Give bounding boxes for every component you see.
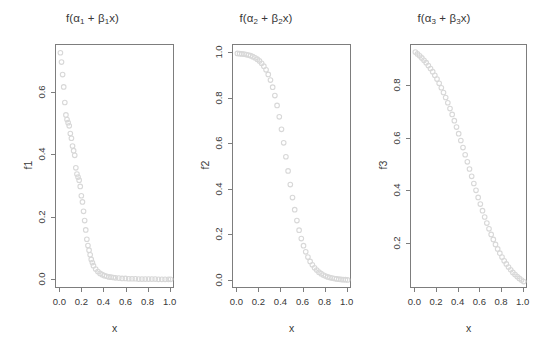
panel-3: f(α3 + β3x)0.00.20.40.60.81.00.20.40.60.… <box>354 0 534 348</box>
x-tick-label: 0.4 <box>97 296 110 307</box>
plot-area-1 <box>55 44 174 288</box>
x-tick-label: 0.8 <box>494 296 507 307</box>
y-tick-mark <box>51 154 55 155</box>
panel-title-2: f(α2 + β2x) <box>178 12 354 24</box>
x-tick-mark <box>103 288 104 292</box>
x-tick-mark <box>479 288 480 292</box>
data-markers-2 <box>233 45 352 289</box>
x-tick-label: 0.2 <box>252 296 265 307</box>
x-tick-mark <box>280 288 281 292</box>
data-markers-1 <box>56 45 175 289</box>
y-tick-mark <box>51 92 55 93</box>
y-tick-mark <box>228 189 232 190</box>
x-tick-mark <box>148 288 149 292</box>
x-tick-label: 1.0 <box>516 296 529 307</box>
plot-area-3 <box>410 44 527 288</box>
plot-area-2 <box>232 44 351 288</box>
x-tick-label: 0.6 <box>119 296 132 307</box>
y-axis-label-1: f1 <box>22 150 34 180</box>
x-tick-label: 0.4 <box>451 296 464 307</box>
y-tick-mark <box>51 217 55 218</box>
y-tick-label: 0.2 <box>213 227 225 241</box>
y-axis-label-3: f3 <box>377 150 389 180</box>
x-tick-label: 1.0 <box>163 296 176 307</box>
y-tick-mark <box>406 190 410 191</box>
panel-title-1: f(α1 + β1x) <box>0 12 185 24</box>
y-tick-mark <box>228 143 232 144</box>
x-tick-mark <box>325 288 326 292</box>
x-tick-label: 0.0 <box>408 296 421 307</box>
x-tick-label: 0.6 <box>296 296 309 307</box>
y-tick-mark <box>228 280 232 281</box>
y-tick-label: 0.0 <box>213 273 225 287</box>
y-tick-label: 0.8 <box>391 78 403 92</box>
y-tick-label: 0.4 <box>391 183 403 197</box>
y-tick-label: 1.0 <box>213 45 225 59</box>
figure-canvas: . f(α1 + β1x)0.00.20.40.60.81.00.00.20.4… <box>0 0 534 348</box>
x-tick-mark <box>414 288 415 292</box>
x-tick-label: 0.2 <box>75 296 88 307</box>
y-tick-label: 0.2 <box>391 236 403 250</box>
y-tick-mark <box>406 138 410 139</box>
x-tick-label: 0.0 <box>230 296 243 307</box>
x-tick-label: 1.0 <box>340 296 353 307</box>
x-tick-label: 0.8 <box>141 296 154 307</box>
x-axis-label-2: x <box>232 322 351 334</box>
y-tick-mark <box>228 52 232 53</box>
x-tick-mark <box>436 288 437 292</box>
x-tick-mark <box>523 288 524 292</box>
panel-title-3: f(α3 + β3x) <box>354 12 534 24</box>
y-tick-label: 0.6 <box>36 85 48 99</box>
y-tick-label: 0.2 <box>36 210 48 224</box>
x-tick-mark <box>59 288 60 292</box>
x-tick-label: 0.4 <box>274 296 287 307</box>
x-tick-mark <box>81 288 82 292</box>
y-tick-label: 0.6 <box>213 136 225 150</box>
x-tick-mark <box>458 288 459 292</box>
y-tick-mark <box>51 279 55 280</box>
x-tick-mark <box>170 288 171 292</box>
y-tick-mark <box>406 85 410 86</box>
panel-1: f(α1 + β1x)0.00.20.40.60.81.00.00.20.40.… <box>0 0 185 348</box>
y-tick-mark <box>228 234 232 235</box>
y-tick-label: 0.8 <box>213 91 225 105</box>
x-tick-mark <box>303 288 304 292</box>
y-tick-mark <box>406 243 410 244</box>
y-tick-mark <box>228 98 232 99</box>
x-tick-label: 0.8 <box>318 296 331 307</box>
x-tick-label: 0.2 <box>429 296 442 307</box>
x-tick-label: 0.0 <box>53 296 66 307</box>
y-tick-label: 0.0 <box>36 272 48 286</box>
x-tick-label: 0.6 <box>473 296 486 307</box>
y-tick-label: 0.6 <box>391 131 403 145</box>
x-tick-mark <box>236 288 237 292</box>
y-tick-label: 0.4 <box>36 147 48 161</box>
x-tick-mark <box>347 288 348 292</box>
x-tick-mark <box>501 288 502 292</box>
panel-2: f(α2 + β2x)0.00.20.40.60.81.00.00.20.40.… <box>178 0 354 348</box>
x-axis-label-3: x <box>410 322 527 334</box>
y-tick-label: 0.4 <box>213 182 225 196</box>
x-tick-mark <box>258 288 259 292</box>
y-axis-label-2: f2 <box>199 150 211 180</box>
x-axis-label-1: x <box>55 322 174 334</box>
data-markers-3 <box>411 45 528 289</box>
x-tick-mark <box>126 288 127 292</box>
